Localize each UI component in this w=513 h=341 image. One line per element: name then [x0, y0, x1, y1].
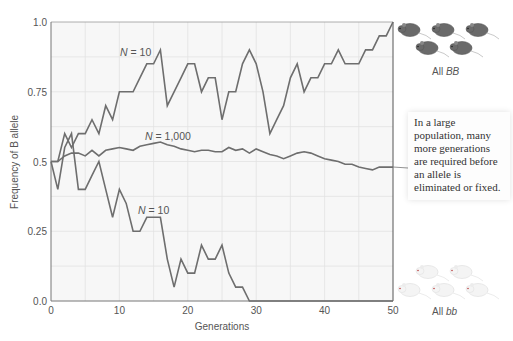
series-label-n1000: N = 1,000 — [145, 130, 191, 142]
caption-genotype: bb — [446, 306, 457, 317]
note-connector — [393, 167, 408, 168]
grid — [51, 22, 393, 301]
dark-mouse-icon — [398, 23, 499, 57]
svg-text:30: 30 — [251, 305, 263, 316]
x-axis-label: Generations — [195, 321, 249, 332]
white-mouse-icon — [398, 265, 499, 299]
annotation-note: In a large population, many more generat… — [408, 112, 510, 200]
series-label-n10-bottom: N = 10 — [138, 204, 169, 216]
series-label-n10-top: N = 10 — [120, 46, 151, 58]
svg-text:50: 50 — [387, 305, 399, 316]
svg-text:0.5: 0.5 — [33, 157, 47, 168]
all-bb-upper-caption: All BB — [432, 66, 459, 77]
caption-genotype: BB — [446, 66, 459, 77]
svg-text:40: 40 — [319, 305, 331, 316]
svg-text:0.75: 0.75 — [28, 87, 48, 98]
svg-text:1.0: 1.0 — [33, 17, 47, 28]
svg-text:0.25: 0.25 — [28, 226, 48, 237]
svg-text:0.0: 0.0 — [33, 296, 47, 307]
caption-prefix: All — [432, 66, 446, 77]
svg-text:20: 20 — [182, 305, 194, 316]
y-axis-label: Frequency of B allele — [9, 115, 20, 209]
caption-prefix: All — [432, 306, 446, 317]
svg-text:0: 0 — [48, 305, 54, 316]
svg-text:10: 10 — [114, 305, 126, 316]
all-bb-lower-caption: All bb — [432, 306, 457, 317]
